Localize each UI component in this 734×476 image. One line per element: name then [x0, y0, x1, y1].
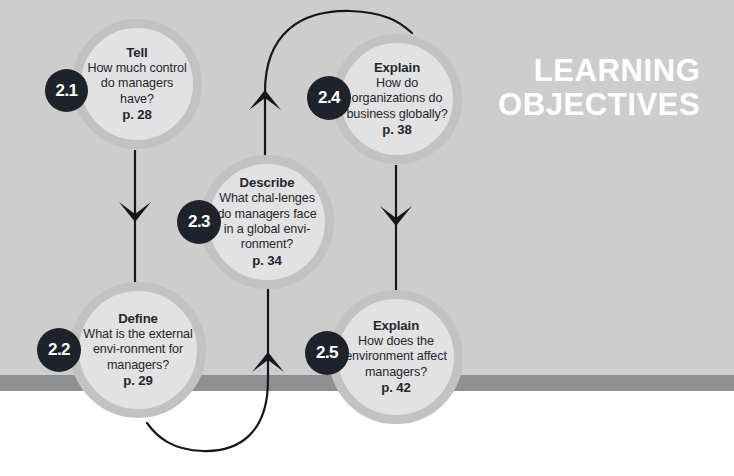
- page-title: LEARNING OBJECTIVES: [498, 54, 700, 122]
- objective-page-2-5: p. 42: [342, 380, 450, 396]
- objective-text-2-5: Explain How does the environment affect …: [338, 318, 454, 396]
- objective-node-2-5[interactable]: Explain How does the environment affect …: [329, 290, 463, 424]
- objective-question-2-2: What is the external envi-ronment for ma…: [83, 327, 192, 372]
- objective-badge-2-3[interactable]: 2.3: [177, 200, 221, 244]
- objective-question-2-3: What chal-lenges do managers face in a g…: [217, 191, 316, 251]
- objective-verb-2-3: Describe: [213, 175, 321, 191]
- objective-badge-2-1[interactable]: 2.1: [45, 69, 88, 112]
- objective-question-2-4: How do organizations do business globall…: [346, 76, 447, 121]
- objective-page-2-3: p. 34: [213, 253, 321, 269]
- objective-node-2-1[interactable]: Tell How much control do managers have? …: [72, 19, 202, 149]
- objective-verb-2-4: Explain: [345, 60, 449, 76]
- objective-question-2-5: How does the environment affect managers…: [345, 334, 447, 379]
- objective-question-2-1: How much control do managers have?: [87, 61, 186, 106]
- objective-verb-2-5: Explain: [342, 318, 450, 334]
- objective-page-2-2: p. 29: [83, 373, 193, 389]
- objective-node-2-2[interactable]: Define What is the external envi-ronment…: [70, 282, 206, 418]
- objective-badge-2-2[interactable]: 2.2: [37, 328, 81, 372]
- learning-objectives-diagram: Tell How much control do managers have? …: [0, 0, 734, 476]
- page-title-line-2: OBJECTIVES: [498, 88, 700, 122]
- page-title-line-1: LEARNING: [498, 54, 700, 88]
- objective-badge-2-5[interactable]: 2.5: [305, 331, 349, 375]
- objective-page-2-1: p. 28: [85, 107, 189, 123]
- objective-node-2-4[interactable]: Explain How do organizations do business…: [332, 34, 462, 164]
- objective-verb-2-1: Tell: [85, 45, 189, 61]
- objective-page-2-4: p. 38: [345, 122, 449, 138]
- objective-badge-2-4[interactable]: 2.4: [307, 76, 351, 120]
- objective-text-2-4: Explain How do organizations do business…: [341, 60, 453, 138]
- objective-text-2-3: Describe What chal-lenges do managers fa…: [209, 175, 325, 269]
- objective-text-2-2: Define What is the external envi-ronment…: [79, 311, 197, 389]
- objective-verb-2-2: Define: [83, 311, 193, 327]
- objective-text-2-1: Tell How much control do managers have? …: [81, 45, 193, 123]
